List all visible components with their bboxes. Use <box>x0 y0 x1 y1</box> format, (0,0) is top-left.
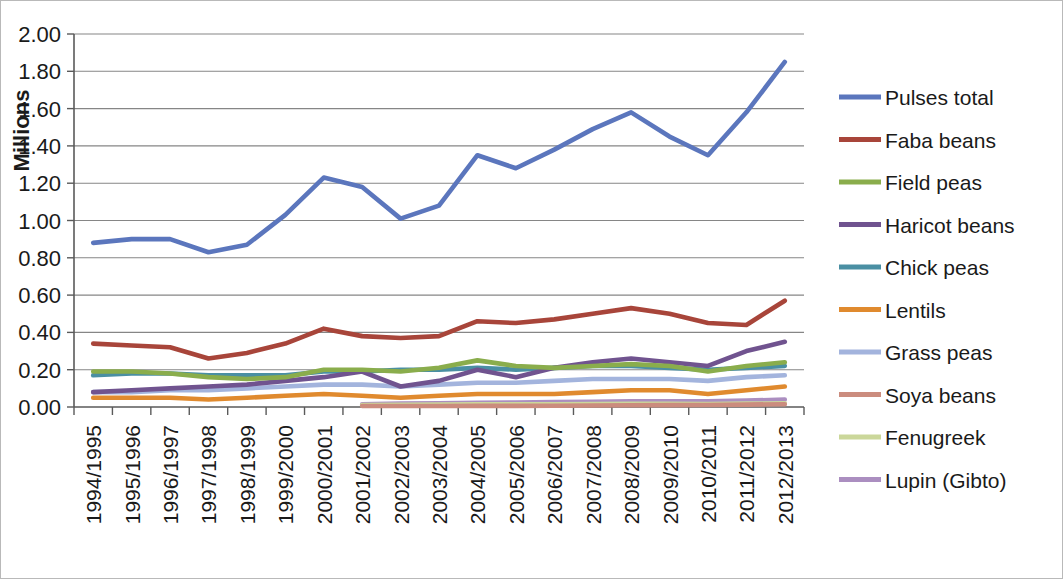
y-axis-tick-label: 0.20 <box>18 358 61 383</box>
x-axis-tick-label: 2005/2006 <box>505 425 528 524</box>
line-chart: 0.000.200.400.600.801.001.201.401.601.80… <box>1 1 1063 579</box>
y-axis-tick-label: 0.00 <box>18 395 61 420</box>
x-axis-tick-label: 1994/1995 <box>82 425 105 524</box>
y-axis-tick-label: 1.80 <box>18 59 61 84</box>
chart-image: 0.000.200.400.600.801.001.201.401.601.80… <box>0 0 1063 579</box>
x-axis-tick-label: 1997/1998 <box>197 425 220 524</box>
series-line <box>93 62 785 252</box>
legend-label: Lentils <box>885 299 946 322</box>
x-axis-tick-label: 2009/2010 <box>659 425 682 524</box>
x-axis-tick-label: 2007/2008 <box>582 425 605 524</box>
gridlines: 0.000.200.400.600.801.001.201.401.601.80… <box>18 22 804 420</box>
x-axis-tick-label: 2008/2009 <box>620 425 643 524</box>
y-axis-title: Millions <box>9 90 34 172</box>
x-axis-categories: 1994/19951995/19961996/19971997/19981998… <box>74 407 804 524</box>
y-axis-tick-label: 0.40 <box>18 320 61 345</box>
legend: Pulses totalFaba beansField peasHaricot … <box>839 86 1015 492</box>
legend-label: Lupin (Gibto) <box>885 469 1006 492</box>
y-axis-tick-label: 0.80 <box>18 246 61 271</box>
legend-label: Chick peas <box>885 256 989 279</box>
x-axis-tick-label: 1995/1996 <box>121 425 144 524</box>
x-axis-tick-label: 2006/2007 <box>543 425 566 524</box>
x-axis-tick-label: 2001/2002 <box>351 425 374 524</box>
x-axis-tick-label: 2003/2004 <box>428 425 451 525</box>
x-axis-tick-label: 2010/2011 <box>697 425 720 523</box>
legend-label: Soya beans <box>885 384 996 407</box>
series-line <box>93 301 785 359</box>
x-axis-tick-label: 2011/2012 <box>735 425 758 523</box>
y-axis-tick-label: 0.60 <box>18 283 61 308</box>
x-axis-tick-label: 1996/1997 <box>159 425 182 524</box>
legend-label: Pulses total <box>885 86 994 109</box>
x-axis-tick-label: 1999/2000 <box>274 425 297 524</box>
x-axis-tick-label: 2002/2003 <box>390 425 413 524</box>
legend-label: Grass peas <box>885 341 992 364</box>
series-line <box>362 404 785 406</box>
legend-label: Faba beans <box>885 129 996 152</box>
x-axis-tick-label: 2004/2005 <box>466 425 489 524</box>
x-axis-tick-label: 2012/2013 <box>774 425 797 524</box>
x-axis-tick-label: 2000/2001 <box>313 425 336 524</box>
y-axis-tick-label: 1.00 <box>18 209 61 234</box>
legend-label: Field peas <box>885 171 982 194</box>
y-axis-tick-label: 1.20 <box>18 171 61 196</box>
y-axis-tick-label: 2.00 <box>18 22 61 47</box>
series-group <box>93 62 785 406</box>
legend-label: Haricot beans <box>885 214 1015 237</box>
legend-label: Fenugreek <box>885 426 986 449</box>
x-axis-tick-label: 1998/1999 <box>236 425 259 524</box>
